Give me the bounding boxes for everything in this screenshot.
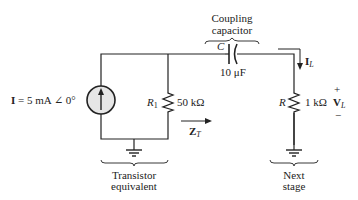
r1-value: 50 kΩ: [177, 97, 204, 108]
zt-label: ZT: [189, 126, 201, 140]
vl-plus: +: [334, 84, 340, 95]
vl-symbol: V: [333, 96, 341, 108]
capacitor-caption-line1: Coupling: [196, 13, 268, 24]
wire-left-loop: [101, 54, 225, 139]
resistor-r1-icon: [163, 92, 173, 113]
source-value: 5 mA: [27, 94, 51, 106]
source-angle: ∠ 0°: [54, 94, 76, 106]
source-label: I = 5 mA ∠ 0°: [11, 95, 76, 106]
capacitor-value: 10 μF: [220, 67, 246, 78]
current-source-icon: [87, 86, 115, 114]
resistor-load-icon: [289, 92, 299, 113]
current-il-arrow-icon: [278, 49, 303, 70]
circuit-diagram: I = 5 mA ∠ 0° R1 50 kΩ ZT Coupling capac…: [0, 0, 358, 200]
capacitor-brace: [205, 38, 259, 44]
capacitor-symbol: C: [217, 41, 224, 52]
transistor-brace: [101, 160, 168, 166]
next-stage-brace: [270, 160, 318, 166]
ground-right-icon: [286, 150, 302, 156]
ground-left-icon: [126, 150, 142, 156]
il-label: IL: [305, 56, 314, 70]
source-equals: =: [18, 94, 24, 106]
capacitor-icon: [225, 44, 237, 64]
vl-subscript: L: [341, 101, 345, 110]
load-r-value: 1 kΩ: [305, 97, 327, 108]
vl-minus: −: [335, 110, 341, 121]
next-stage-caption-line2: stage: [264, 181, 324, 192]
source-symbol: I: [11, 94, 15, 106]
load-r-symbol: R: [279, 97, 286, 108]
capacitor-caption-line2: capacitor: [196, 25, 268, 36]
r1-symbol: R: [147, 96, 154, 108]
r1-subscript: 1: [154, 101, 158, 110]
il-subscript: L: [309, 60, 313, 69]
r1-symbol-label: R1: [147, 97, 158, 111]
impedance-zt-arrow-icon: [181, 118, 212, 124]
zt-subscript: T: [196, 130, 200, 139]
transistor-caption-line2: equivalent: [94, 181, 174, 192]
